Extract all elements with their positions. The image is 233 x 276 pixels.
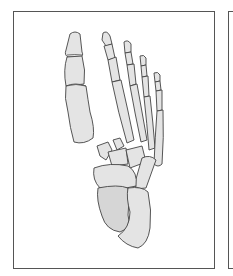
big-toe-bones <box>65 32 94 143</box>
fifth-toe-bones <box>154 72 163 166</box>
foot-skeleton-illustration <box>0 0 233 276</box>
tarsal-bones <box>94 138 156 248</box>
